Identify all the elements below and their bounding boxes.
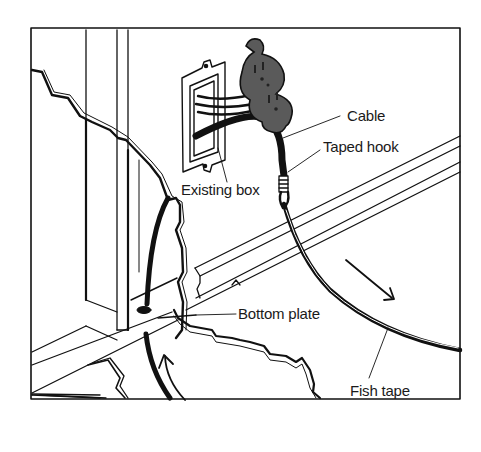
- plate-hole: [137, 307, 151, 314]
- torn-drywall-edge-lower-inner: [174, 316, 316, 398]
- arrow-up-icon: [159, 355, 185, 400]
- label-taped-hook: Taped hook: [323, 139, 399, 154]
- fish-tape-right-highlight: [286, 210, 458, 348]
- label-bottom-plate: Bottom plate: [238, 306, 320, 321]
- arrow-down-right-icon: [346, 260, 394, 300]
- existing-box: [182, 60, 225, 172]
- fish-tape-right: [284, 204, 460, 350]
- torn-drywall-edge-lower: [174, 310, 320, 398]
- label-fish-tape: Fish tape: [350, 383, 410, 398]
- wall-studs: [86, 30, 128, 330]
- torn-drywall-edge-upper: [32, 70, 183, 338]
- stud-edge: [131, 278, 177, 300]
- label-cable: Cable: [347, 108, 385, 123]
- label-existing-box: Existing box: [181, 182, 259, 197]
- floor-joist: [32, 358, 128, 398]
